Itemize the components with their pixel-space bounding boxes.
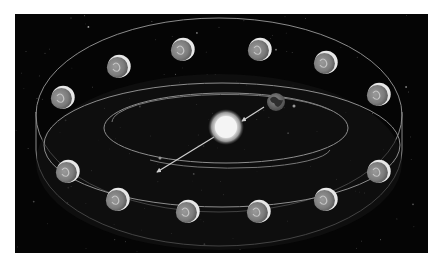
star [182,67,183,68]
star [26,51,27,52]
star [42,99,43,100]
star [137,251,138,252]
star [175,74,176,75]
orbit-marker [159,157,162,160]
zodiac-diagram [0,0,444,267]
star [413,226,414,227]
star [28,148,29,149]
disc-body [247,202,268,223]
star [396,218,397,219]
disc-body [248,40,269,61]
sun [215,116,237,138]
disc-body [314,190,335,211]
disc-body [51,88,72,109]
star [410,136,411,137]
disc-body [107,57,128,78]
star [114,239,115,240]
star [49,49,50,50]
star [286,33,287,34]
orbit-marker [293,105,296,108]
star [47,223,48,224]
star [151,21,152,22]
star [408,92,409,93]
star [340,47,341,48]
star [411,159,412,160]
star [405,86,407,88]
disc-body [106,190,127,211]
disc-body [171,40,192,61]
star [16,130,17,131]
star [85,23,86,24]
star [92,87,93,88]
star [125,241,126,242]
star [286,51,287,52]
star [17,246,18,247]
earth [267,93,285,111]
star [275,49,277,51]
star [155,39,156,40]
disc-body [367,85,388,106]
star [196,32,198,34]
star [219,27,220,28]
star [206,52,207,53]
star [406,15,407,16]
star [39,75,40,76]
star [412,203,414,205]
star [37,98,38,99]
star [380,239,381,240]
star [270,38,271,39]
star [23,88,24,89]
disc-body [56,162,77,183]
star [361,241,362,242]
star [86,248,87,249]
star [21,73,22,74]
star [356,248,357,249]
star [172,36,173,37]
star [305,18,306,19]
star [272,35,273,36]
disc-body [176,202,197,223]
star [285,16,286,17]
star [71,68,72,69]
star [71,18,72,19]
star [243,20,244,21]
star [45,53,46,54]
star [292,52,293,53]
star [88,26,90,28]
disc-body [367,162,388,183]
star [357,57,358,58]
star [84,15,85,16]
disc-body [314,53,335,74]
star [33,201,35,203]
star [164,74,165,75]
